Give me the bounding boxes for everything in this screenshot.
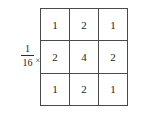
- fraction-numerator: 1: [24, 44, 31, 54]
- matrix-cell: 1: [41, 9, 70, 41]
- matrix-cell: 2: [70, 74, 99, 106]
- matrix-cell: 4: [70, 41, 99, 73]
- kernel-figure: 1 16 × 1 2 1 2 4 2 1 2 1: [0, 0, 142, 116]
- matrix-cell: 1: [41, 74, 70, 106]
- matrix-cell: 2: [41, 41, 70, 73]
- scalar-factor: 1 16 ×: [8, 42, 40, 70]
- matrix-cell: 2: [99, 41, 128, 73]
- matrix-cell: 1: [99, 9, 128, 41]
- fraction-denominator: 16: [21, 57, 33, 68]
- matrix-cell: 2: [70, 9, 99, 41]
- kernel-matrix-grid: 1 2 1 2 4 2 1 2 1: [40, 8, 128, 106]
- matrix-cell: 1: [99, 74, 128, 106]
- fraction-one-sixteenth: 1 16: [21, 44, 34, 68]
- fraction-bar: [21, 55, 34, 56]
